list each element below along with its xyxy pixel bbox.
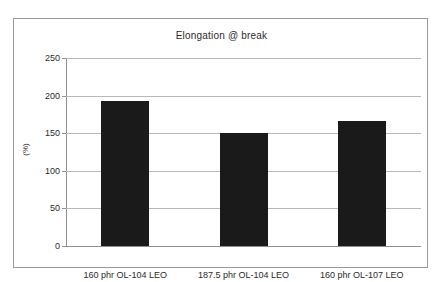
bars-group: 160 phr OL-104 LEO187.5 phr OL-104 LEO16… — [66, 58, 421, 246]
bar — [338, 121, 386, 246]
x-tick-label: 187.5 phr OL-104 LEO — [198, 270, 289, 280]
y-tick-label-200: 200 — [45, 91, 60, 101]
bar — [101, 101, 149, 246]
plot-area: 050100150200250 160 phr OL-104 LEO187.5 … — [66, 40, 421, 246]
y-tick-label-150: 150 — [45, 128, 60, 138]
y-tick-label-0: 0 — [55, 241, 60, 251]
x-tick-label: 160 phr OL-104 LEO — [83, 270, 167, 280]
y-tick-label-250: 250 — [45, 53, 60, 63]
y-tick-mark-0 — [62, 246, 66, 247]
x-tick-label: 160 phr OL-107 LEO — [320, 270, 404, 280]
y-tick-label-100: 100 — [45, 166, 60, 176]
bar — [220, 133, 268, 246]
chart-frame: Elongation @ break (%) 050100150200250 1… — [13, 18, 428, 268]
y-tick-label-50: 50 — [50, 203, 60, 213]
gridline-0 — [66, 246, 421, 247]
y-axis-title: (%) — [21, 130, 30, 170]
